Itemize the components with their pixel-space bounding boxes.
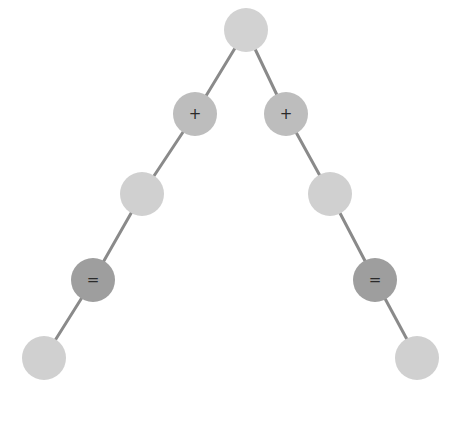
- tree-diagram: ++==: [0, 0, 459, 421]
- node-leaf-right: [395, 336, 439, 380]
- node-circle: [120, 172, 164, 216]
- node-label: +: [280, 105, 293, 123]
- node-circle: [224, 8, 268, 52]
- node-circle: [22, 336, 66, 380]
- node-mid-left: [120, 172, 164, 216]
- node-plus-left: +: [173, 92, 217, 136]
- nodes-layer: ++==: [22, 8, 439, 380]
- node-circle: [308, 172, 352, 216]
- node-label: =: [369, 271, 382, 289]
- node-root: [224, 8, 268, 52]
- node-leaf-left: [22, 336, 66, 380]
- node-plus-right: +: [264, 92, 308, 136]
- node-circle: [395, 336, 439, 380]
- node-label: =: [87, 271, 100, 289]
- edges-layer: [44, 30, 417, 358]
- node-mid-right: [308, 172, 352, 216]
- node-label: +: [189, 105, 202, 123]
- node-eq-left: =: [71, 258, 115, 302]
- node-eq-right: =: [353, 258, 397, 302]
